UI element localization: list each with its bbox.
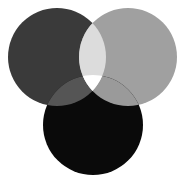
venn-diagram (0, 0, 185, 181)
venn-diagram-svg (0, 0, 185, 181)
